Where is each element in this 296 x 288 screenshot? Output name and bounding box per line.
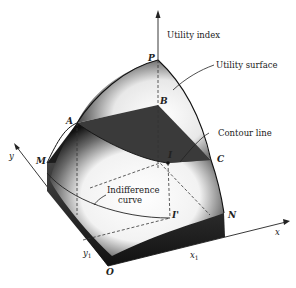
point-B-label: B: [160, 97, 168, 106]
origin-O-label: O: [106, 268, 114, 277]
point-N-label: N: [228, 211, 236, 220]
point-I-prime-label: I': [172, 211, 179, 220]
point-P-label: P: [148, 54, 155, 63]
x-axis-label: x: [275, 228, 280, 237]
y1-tick-sub: 1: [88, 252, 92, 259]
y-axis-label: y: [9, 152, 14, 161]
x1-tick-label: x1: [190, 251, 199, 261]
utility-index-label: Utility index: [167, 31, 220, 40]
point-A-label: A: [66, 117, 73, 126]
point-I-label: I: [168, 151, 172, 160]
point-M-label: M: [36, 157, 46, 166]
point-C-label: C: [217, 155, 224, 164]
contour-line-label: Contour line: [218, 129, 272, 138]
utility-axis: [156, 10, 161, 60]
indifference-curve-label-2: curve: [118, 196, 142, 205]
y1-tick-label: y1: [83, 249, 92, 259]
utility-surface-label: Utility surface: [216, 61, 278, 70]
point-I-marker: [166, 161, 170, 165]
utility-surface-diagram: [0, 0, 296, 288]
x1-tick-sub: 1: [195, 254, 199, 261]
indifference-curve-label-1: Indifference: [107, 186, 159, 195]
